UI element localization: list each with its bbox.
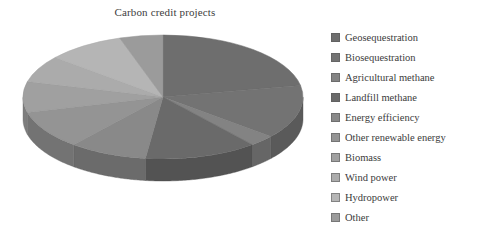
legend-swatch-icon [331,153,340,162]
legend-item[interactable]: Energy efficiency [331,107,483,127]
legend-item[interactable]: Biomass [331,147,483,167]
legend-swatch-icon [331,173,340,182]
legend-item-label: Wind power [345,172,397,183]
legend-item-label: Other renewable energy [345,132,446,143]
legend-swatch-icon [331,193,340,202]
legend-swatch-icon [331,73,340,82]
legend-item-label: Biomass [345,152,381,163]
legend-swatch-icon [331,133,340,142]
legend-item-label: Agricultural methane [345,72,435,83]
pie-chart-graphic [0,0,330,236]
pie-chart-figure: Carbon credit projects GeosequestrationB… [0,0,483,236]
legend-item[interactable]: Geosequestration [331,27,483,47]
legend-item[interactable]: Biosequestration [331,47,483,67]
legend-swatch-icon [331,113,340,122]
legend-item-label: Hydropower [345,192,398,203]
legend-item-label: Geosequestration [345,32,418,43]
legend-swatch-icon [331,53,340,62]
legend-item-label: Energy efficiency [345,112,420,123]
legend-item-label: Biosequestration [345,52,416,63]
legend-item[interactable]: Agricultural methane [331,67,483,87]
legend-item[interactable]: Other [331,207,483,227]
chart-legend: GeosequestrationBiosequestrationAgricult… [331,27,483,227]
legend-item[interactable]: Other renewable energy [331,127,483,147]
legend-swatch-icon [331,213,340,222]
legend-item-label: Landfill methane [345,92,417,103]
legend-item[interactable]: Wind power [331,167,483,187]
legend-swatch-icon [331,93,340,102]
legend-item-label: Other [345,212,369,223]
legend-swatch-icon [331,33,340,42]
legend-item[interactable]: Hydropower [331,187,483,207]
legend-item[interactable]: Landfill methane [331,87,483,107]
pie-top-face [23,35,303,159]
